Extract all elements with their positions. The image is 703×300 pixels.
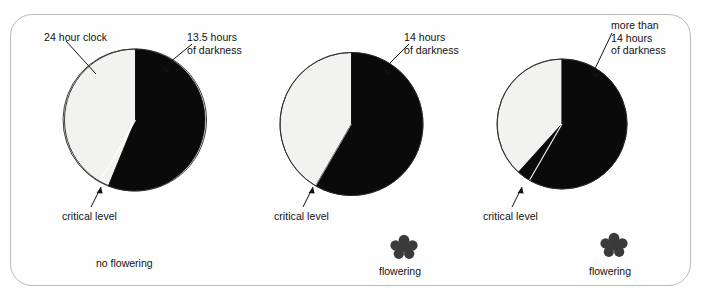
- pie-3-caption: flowering: [589, 265, 631, 277]
- pie-chart-3: [0, 0, 703, 300]
- pie-3-critical-arrowhead-icon: [518, 187, 524, 194]
- pie-3-dark-label-line1: more than: [611, 19, 659, 32]
- pie-3-dark-label-line3: of darkness: [611, 44, 666, 57]
- pie-3-dark-label-line2: 14 hours: [611, 32, 652, 45]
- figure-root: 24 hour clock 13.5 hours of darkness cri…: [0, 0, 703, 300]
- pie-3-critical-label: critical level: [483, 210, 538, 223]
- flower-icon-3: [600, 232, 628, 258]
- pie-3-dark-leader-line: [592, 33, 612, 75]
